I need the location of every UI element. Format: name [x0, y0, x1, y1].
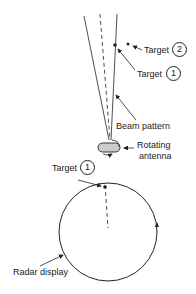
display-target-number-badge: 1	[80, 160, 95, 175]
target1-label: Target	[137, 69, 162, 79]
radar-display-circle	[59, 183, 157, 281]
rotating-antenna-label-line1: Rotating	[137, 140, 171, 150]
rotating-antenna-label-line2: antenna	[139, 151, 172, 161]
target1-dot	[113, 43, 117, 47]
display-sweep	[105, 185, 108, 228]
radar-display-label: Radar display	[13, 267, 68, 277]
target2-label: Target	[144, 45, 169, 55]
rotation-direction-arrow	[155, 222, 159, 227]
display-target-label: Target	[52, 163, 77, 173]
target2-dot	[127, 43, 130, 46]
rotating-antenna-icon	[98, 143, 120, 152]
display-target-dot	[103, 185, 107, 189]
target2-number-badge: 2	[172, 42, 187, 57]
target1-number-badge: 1	[166, 66, 181, 81]
beam-pattern-label: Beam pattern	[116, 121, 170, 131]
